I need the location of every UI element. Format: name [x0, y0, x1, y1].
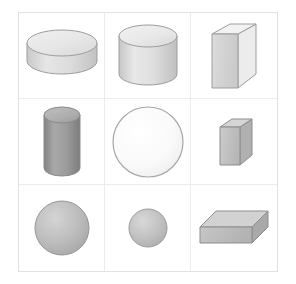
grid-cell-4[interactable] [19, 99, 105, 185]
shape-tall-thin-box[interactable] [191, 13, 277, 98]
grid-cell-5[interactable] [105, 99, 191, 185]
grid-cell-6[interactable] [191, 99, 277, 185]
shape-grid [18, 12, 278, 272]
cuboid-icon [204, 18, 264, 94]
sphere-icon [111, 105, 185, 179]
shape-small-gray-sphere[interactable] [105, 185, 190, 271]
sphere-icon [33, 199, 91, 257]
shape-wide-flat-box[interactable] [191, 185, 277, 271]
cylinder-icon [115, 22, 181, 90]
grid-cell-8[interactable] [105, 185, 191, 271]
grid-cell-2[interactable] [105, 13, 191, 99]
shapes-grid-canvas [0, 0, 296, 284]
cuboid-icon [210, 111, 258, 173]
sphere-icon [127, 207, 169, 249]
shape-upright-cylinder[interactable] [105, 13, 190, 98]
shape-large-pale-sphere[interactable] [105, 99, 190, 184]
grid-cell-1[interactable] [19, 13, 105, 99]
cuboid-icon [196, 201, 272, 255]
shape-small-upright-box[interactable] [191, 99, 277, 184]
cylinder-icon [23, 28, 101, 84]
grid-cell-9[interactable] [191, 185, 277, 271]
shape-flat-disc-cylinder[interactable] [19, 13, 104, 98]
grid-cell-7[interactable] [19, 185, 105, 271]
cylinder-icon [40, 104, 84, 180]
shape-tall-narrow-cylinder[interactable] [19, 99, 104, 184]
shape-large-gray-sphere[interactable] [19, 185, 104, 271]
grid-cell-3[interactable] [191, 13, 277, 99]
